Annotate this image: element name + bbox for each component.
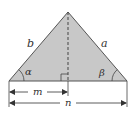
label-side-b: b <box>27 37 34 50</box>
label-segment-m: m <box>33 86 42 97</box>
label-angle-alpha: α <box>25 66 32 77</box>
label-side-a: a <box>101 37 108 50</box>
label-angle-beta: β <box>98 67 105 78</box>
triangle-diagram: b a α β m n <box>0 0 135 117</box>
label-segment-n: n <box>65 97 71 108</box>
